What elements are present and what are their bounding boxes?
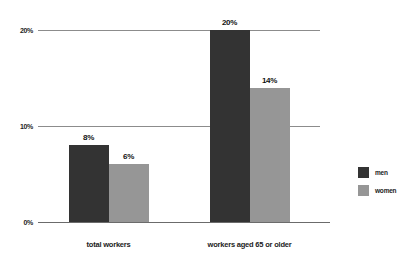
legend-label: men [375, 169, 388, 176]
y-axis-tick-label: 20% [20, 27, 33, 34]
bar-women-0: 6% [109, 164, 149, 222]
x-axis-category-label: total workers [86, 240, 130, 249]
bar-women-1: 14% [250, 88, 290, 222]
bar-chart: 0%10%20%8%6%20%14% menwomen total worker… [0, 0, 414, 260]
y-axis-tick-label: 10% [20, 123, 33, 130]
x-axis-category-label: workers aged 65 or older [208, 240, 292, 249]
y-axis-tick-label: 0% [23, 219, 33, 226]
bar-men-1: 20% [210, 30, 250, 222]
legend-item-women[interactable]: women [358, 181, 396, 199]
bar-men-0: 8% [69, 145, 109, 222]
gridline-20%: 20% [38, 30, 320, 31]
bar-value-label: 6% [123, 152, 134, 161]
legend-swatch-men [358, 167, 369, 178]
legend-item-men[interactable]: men [358, 163, 396, 181]
legend-swatch-women [358, 185, 369, 196]
chart-legend: menwomen [358, 163, 396, 199]
axis-baseline [38, 222, 330, 223]
bar-value-label: 14% [262, 76, 277, 85]
bar-value-label: 20% [222, 18, 237, 27]
legend-label: women [375, 187, 396, 194]
plot-area: 0%10%20%8%6%20%14% [38, 30, 320, 222]
bar-value-label: 8% [83, 133, 94, 142]
